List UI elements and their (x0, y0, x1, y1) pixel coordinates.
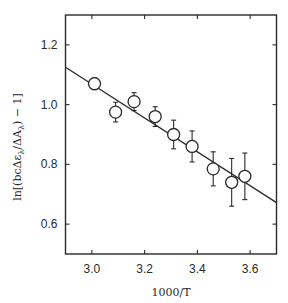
data-point (226, 158, 238, 206)
open-circle-marker (239, 170, 251, 182)
y-tick-label: 1.0 (41, 98, 58, 112)
x-axis-ticks: 3.03.23.43.6 (84, 15, 259, 276)
y-axis-title-mid: /ΔA (11, 129, 24, 150)
open-circle-marker (168, 129, 180, 141)
x-axis-title: 1000/T (151, 286, 191, 299)
data-point (149, 107, 161, 127)
y-axis-title-prefix: ln[(bcΔε (11, 154, 24, 200)
x-tick-label: 3.2 (136, 262, 153, 276)
data-point (207, 152, 219, 186)
open-circle-marker (128, 96, 140, 108)
y-axis-ticks: 0.60.81.01.2 (41, 38, 277, 231)
open-circle-marker (149, 111, 161, 123)
chart: 3.03.23.43.6 0.60.81.01.2 1000/T ln[(bcΔ… (0, 0, 288, 303)
y-tick-label: 1.2 (41, 38, 58, 52)
x-tick-label: 3.0 (84, 262, 101, 276)
data-point (89, 78, 101, 90)
y-axis-title: ln[(bcΔελ/ΔAλ) − 1] (11, 93, 26, 201)
data-point (110, 102, 122, 122)
open-circle-marker (89, 78, 101, 90)
x-tick-label: 3.4 (189, 262, 206, 276)
data-point (239, 153, 251, 200)
open-circle-marker (110, 106, 122, 118)
y-axis-title-suffix: ) − 1] (11, 93, 24, 125)
open-circle-marker (207, 163, 219, 175)
data-point (168, 120, 180, 149)
data-point (186, 131, 198, 162)
y-tick-label: 0.8 (41, 157, 58, 171)
open-circle-marker (186, 140, 198, 152)
open-circle-marker (226, 176, 238, 188)
y-tick-label: 0.6 (41, 217, 58, 231)
x-tick-label: 3.6 (242, 262, 259, 276)
